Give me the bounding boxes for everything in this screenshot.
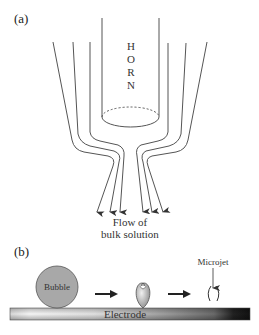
svg-text:H: H xyxy=(127,40,135,52)
arrow-right-icon xyxy=(168,290,191,298)
arrow-right-icon xyxy=(95,290,118,298)
bubble-label: Bubble xyxy=(44,282,70,292)
microjet xyxy=(208,286,219,301)
svg-text:R: R xyxy=(127,66,135,78)
flow-caption-line1: Flow of xyxy=(113,216,148,228)
electrode-label: Electrode xyxy=(104,308,146,320)
microjet-label: Microjet xyxy=(198,257,229,267)
sonication-diagram: H O R N Flow of bulk solution Electrode … xyxy=(0,0,259,335)
collapsing-bubble xyxy=(136,283,150,308)
svg-text:O: O xyxy=(127,53,135,65)
svg-text:N: N xyxy=(127,79,135,91)
flow-caption-line2: bulk solution xyxy=(101,228,159,240)
horn-label: H O R N xyxy=(127,40,135,91)
